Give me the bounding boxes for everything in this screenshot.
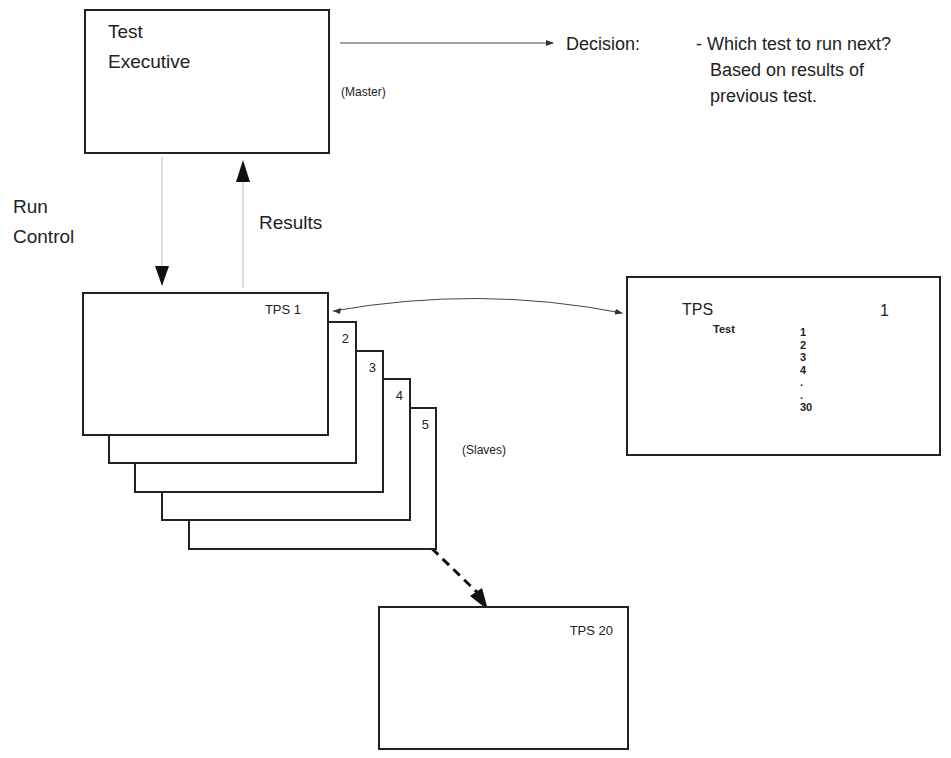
tps-card-2-label: 2 (342, 331, 349, 346)
decision-label: Decision: (566, 34, 640, 55)
master-title-line2: Executive (108, 51, 190, 73)
detail-number: 1 (880, 302, 889, 320)
run-control-arrowhead (155, 266, 169, 286)
tps-card-4-label: 4 (396, 388, 403, 403)
tps-20-label: TPS 20 (570, 623, 613, 638)
test-item: 30 (800, 401, 812, 414)
tps-card-3-label: 3 (369, 360, 376, 375)
decision-line-2: Based on results of (710, 60, 864, 81)
test-item: . (800, 389, 812, 402)
detail-title: TPS (682, 301, 713, 319)
detail-link-arrow (333, 298, 622, 313)
decision-line-1: - Which test to run next? (696, 34, 891, 55)
master-title-line1: Test (108, 21, 143, 43)
run-control-label-2: Control (13, 226, 74, 248)
detail-test-list: 1 2 3 4 . . 30 (800, 326, 812, 414)
test-item: 2 (800, 339, 812, 352)
test-item: 1 (800, 326, 812, 339)
tps-detail-box: TPS 1 Test 1 2 3 4 . . 30 (626, 276, 941, 456)
tps-card-1-label: TPS 1 (265, 302, 301, 317)
results-arrowhead (236, 160, 250, 182)
master-label: (Master) (341, 85, 386, 99)
test-item: 3 (800, 351, 812, 364)
tps-card-5-label: 5 (422, 417, 429, 432)
detail-test-label: Test (713, 323, 735, 335)
tps-20-box: TPS 20 (378, 606, 629, 750)
decision-line-3: previous test. (710, 86, 817, 107)
run-control-label-1: Run (13, 196, 48, 218)
tps-card-1: TPS 1 (82, 292, 329, 436)
test-executive-box: Test Executive (84, 9, 330, 154)
test-item: 4 (800, 364, 812, 377)
test-item: . (800, 376, 812, 389)
results-label: Results (259, 212, 322, 234)
slaves-label: (Slaves) (462, 443, 506, 457)
